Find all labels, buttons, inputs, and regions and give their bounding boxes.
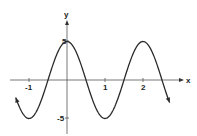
x-axis-arrow-icon [179,78,184,82]
curve-right-arrow-icon [166,97,170,102]
y-axis-label: y [64,10,69,19]
x-axis-label: x [186,76,191,85]
y-axis-arrow-icon [65,20,69,25]
x-axis [10,78,184,82]
curve-left-arrow-icon [15,98,19,103]
x-tick-label: -1 [25,83,33,92]
x-tick-label: 2 [141,83,146,92]
cosine-graph: x y -1 1 2 5 -5 [0,0,197,136]
y-tick-label: -5 [57,114,65,123]
x-tick-label: 1 [103,83,108,92]
